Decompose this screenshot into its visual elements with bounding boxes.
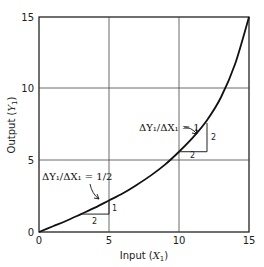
y-tick-10: 10 — [21, 83, 34, 94]
x-tick-5: 5 — [106, 235, 112, 246]
tri1-run-label: 2 — [92, 217, 97, 226]
x-tick-15: 15 — [243, 235, 256, 246]
x-axis-label: Input (X1) — [120, 250, 169, 263]
annotation-slope-half: ΔY₁/ΔX₁ = 1/2 — [42, 171, 112, 182]
y-tick-0: 0 — [28, 227, 34, 238]
production-chart: 2 1 2 2 ΔY₁/ΔX₁ = 1/2 ΔY₁/ΔX₁ = 1 0 5 10… — [0, 0, 264, 267]
tri2-rise-label: 2 — [211, 133, 216, 142]
y-tick-15: 15 — [21, 12, 34, 23]
x-tick-10: 10 — [173, 235, 186, 246]
x-tick-0: 0 — [36, 235, 42, 246]
annotation-slope-one: ΔY₁/ΔX₁ = 1 — [139, 122, 200, 133]
y-tick-5: 5 — [28, 155, 34, 166]
tri1-rise-label: 1 — [112, 204, 117, 213]
y-axis-label: Output (Y1) — [6, 97, 19, 154]
tri2-run-label: 2 — [190, 151, 195, 160]
